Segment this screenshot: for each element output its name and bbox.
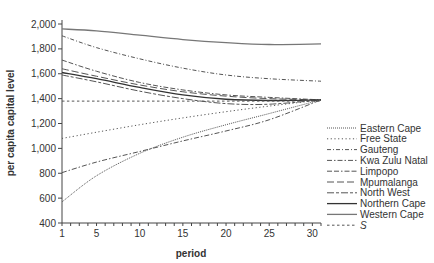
y-tick-label: 1,600 <box>31 68 56 79</box>
legend-label: Kwa Zulu Natal <box>360 155 428 166</box>
x-tick-label: 1 <box>59 228 65 239</box>
x-tick-label: 5 <box>94 228 100 239</box>
legend-label: North West <box>360 187 410 198</box>
legend-label: Mpumalanga <box>360 177 418 188</box>
x-tick-label: 15 <box>177 228 189 239</box>
y-tick-label: 800 <box>39 168 56 179</box>
y-tick-label: 600 <box>39 193 56 204</box>
legend-label: Limpopo <box>360 166 399 177</box>
x-tick-label: 25 <box>264 228 276 239</box>
series-line-gauteng <box>62 36 321 81</box>
x-tick-label: 30 <box>307 228 319 239</box>
y-tick-label: 1,000 <box>31 143 56 154</box>
y-tick-label: 1,800 <box>31 43 56 54</box>
legend-label: Gauteng <box>360 144 398 155</box>
y-axis-label: per capita capital level <box>5 69 16 176</box>
legend-label: Western Cape <box>360 209 424 220</box>
series-line-northern-cape <box>62 73 321 101</box>
series-line-free-state <box>62 100 321 139</box>
legend-label: Northern Cape <box>360 198 426 209</box>
series-line-mpumalanga <box>62 69 321 100</box>
axes: 4006008001,0001,2001,4001,6001,8002,0001… <box>31 19 321 240</box>
legend-label: S <box>360 220 367 231</box>
x-tick-label: 10 <box>134 228 146 239</box>
x-axis-label: period <box>176 248 207 259</box>
series-line-kwa-zulu-natal <box>62 100 321 173</box>
y-tick-label: 400 <box>39 218 56 229</box>
y-tick-label: 2,000 <box>31 19 56 30</box>
chart-canvas: 4006008001,0001,2001,4001,6001,8002,0001… <box>0 0 434 263</box>
x-tick-label: 20 <box>220 228 232 239</box>
legend-label: Eastern Cape <box>360 123 422 134</box>
legend: Eastern CapeFree StateGautengKwa Zulu Na… <box>327 123 428 231</box>
y-tick-label: 1,200 <box>31 118 56 129</box>
legend-label: Free State <box>360 133 407 144</box>
plot-lines <box>62 29 321 202</box>
line-chart: 4006008001,0001,2001,4001,6001,8002,0001… <box>0 0 434 263</box>
series-line-western-cape <box>62 29 321 45</box>
y-tick-label: 1,400 <box>31 93 56 104</box>
